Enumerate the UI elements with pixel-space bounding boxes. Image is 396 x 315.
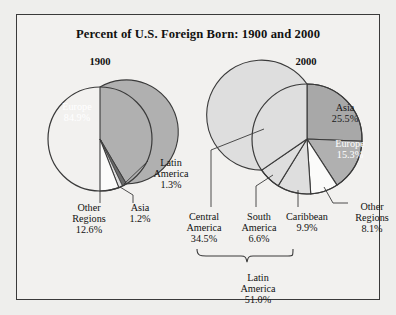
label-2000-caribbean-name: Caribbean	[286, 211, 328, 222]
label-2000-asia: Asia 25.5%	[319, 102, 371, 124]
label-2000-other-regions: Other Regions 8.1%	[344, 201, 396, 234]
label-2000-south-line1: South	[247, 211, 271, 222]
label-1900-other-value: 12.6%	[76, 224, 102, 235]
label-2000-south-line2: America	[241, 222, 276, 233]
label-1900-asia-name: Asia	[131, 202, 150, 213]
label-1900-latin-america: Latin America 1.3%	[140, 157, 202, 190]
latin-america-brace	[197, 249, 293, 262]
label-2000-europe-value: 15.3%	[337, 149, 363, 160]
label-1900-asia: Asia 1.2%	[113, 202, 167, 224]
label-1900-latin-line2: America	[153, 168, 188, 179]
label-1900-other-regions: Other Regions 12.6%	[58, 202, 120, 235]
label-2000-europe-name: Europe	[335, 138, 364, 149]
label-2000-central-line1: Central	[189, 211, 219, 222]
label-1900-latin-value: 1.3%	[160, 179, 181, 190]
chart-figure: Percent of U.S. Foreign Born: 1900 and 2…	[16, 14, 380, 300]
label-2000-europe: Europe 15.3%	[322, 138, 378, 160]
label-2000-central-value: 34.5%	[191, 233, 217, 244]
label-2000-south-value: 6.6%	[248, 233, 269, 244]
label-2000-other-line2: Regions	[355, 212, 388, 223]
label-1900-other-line2: Regions	[72, 213, 105, 224]
label-2000-latin-value: 51.0%	[245, 294, 271, 305]
label-1900-europe-name: Europe	[62, 101, 91, 112]
label-2000-latin-line2: America	[240, 283, 275, 294]
label-2000-caribbean: Caribbean 9.9%	[276, 211, 338, 233]
label-1900-other-line1: Other	[77, 202, 100, 213]
label-2000-asia-value: 25.5%	[332, 113, 358, 124]
label-2000-caribbean-value: 9.9%	[296, 222, 317, 233]
label-2000-latin-america: Latin America 51.0%	[225, 272, 291, 305]
label-2000-other-value: 8.1%	[361, 223, 382, 234]
label-2000-asia-name: Asia	[336, 102, 355, 113]
label-1900-asia-value: 1.2%	[129, 213, 150, 224]
label-1900-latin-line1: Latin	[160, 157, 182, 168]
label-2000-central-line2: America	[186, 222, 221, 233]
leader-1900-asia	[120, 187, 133, 203]
label-1900-europe-value: 84.9%	[64, 112, 90, 123]
label-1900-europe: Europe 84.9%	[35, 101, 119, 123]
label-2000-central-america: Central America 34.5%	[173, 211, 235, 244]
label-2000-latin-line1: Latin	[247, 272, 269, 283]
label-2000-other-line1: Other	[360, 201, 383, 212]
